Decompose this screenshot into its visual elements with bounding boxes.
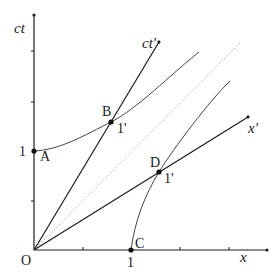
point-a (31, 148, 36, 153)
x-prime-axis-label: x' (247, 120, 259, 136)
ct-prime-axis (34, 42, 159, 250)
point-b-tick-label: 1' (117, 121, 127, 136)
light-line (34, 43, 240, 250)
hyperbola-ab (34, 52, 199, 151)
x-axis-label: x (239, 249, 247, 265)
point-d (156, 169, 161, 174)
origin-label: O (21, 253, 31, 268)
point-c-tick-label: 1 (127, 255, 134, 270)
point-c (128, 247, 133, 252)
diagram-canvas: ct x ct' x' O 1 A B 1' C 1 D 1' (0, 0, 277, 279)
point-d-tick-label: 1' (164, 171, 174, 186)
point-c-label: C (135, 236, 144, 251)
ct-prime-axis-label: ct' (142, 35, 157, 51)
hyperbola-cd (131, 81, 230, 250)
point-b (108, 119, 113, 124)
ct-axis-label: ct (14, 20, 26, 36)
point-a-tick-label: 1 (19, 144, 26, 159)
point-b-label: B (102, 104, 111, 119)
x-prime-axis (34, 117, 248, 250)
point-a-label: A (40, 149, 51, 164)
spacetime-diagram: ct x ct' x' O 1 A B 1' C 1 D 1' (0, 0, 277, 279)
point-d-label: D (150, 155, 160, 170)
